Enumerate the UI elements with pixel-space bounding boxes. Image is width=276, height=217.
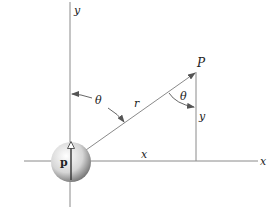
radius-vector-r bbox=[86, 73, 195, 150]
point-label: P bbox=[196, 56, 206, 70]
x-axis-label: x bbox=[260, 155, 267, 168]
theta-label-left: θ bbox=[95, 94, 102, 107]
horizontal-distance-label: x bbox=[141, 148, 148, 161]
theta-arc-left bbox=[72, 94, 92, 98]
theta-arc-left-lower bbox=[108, 108, 124, 122]
dipole-label: p bbox=[60, 156, 68, 169]
dipole-field-diagram: y x P r x y θ θ p bbox=[0, 0, 276, 217]
theta-label-right: θ bbox=[180, 90, 187, 103]
y-axis-label: y bbox=[73, 4, 81, 17]
vertical-distance-label: y bbox=[198, 110, 206, 123]
radius-label: r bbox=[134, 97, 140, 110]
